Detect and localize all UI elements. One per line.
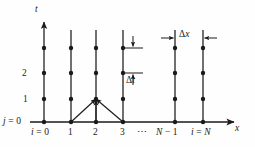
grid-node	[173, 46, 177, 50]
grid-node	[201, 71, 205, 75]
x-tick-label-3: 3	[120, 128, 125, 138]
grid-node	[69, 71, 73, 75]
finite-difference-grid-figure: t x 1 2 j = 0 i = 0 1 2 3 ⋯ N − 1 i = N …	[0, 0, 255, 147]
x-tick-label-iN: i = N	[191, 128, 211, 138]
x-tick-label-N-minus-1: N − 1	[156, 128, 178, 138]
delta-x-label: Δx	[179, 30, 190, 40]
grid-node	[201, 97, 205, 101]
grid-node	[69, 46, 73, 50]
grid-node	[94, 46, 98, 50]
grid-node	[42, 97, 46, 101]
grid-node	[42, 46, 46, 50]
grid-node	[201, 120, 205, 124]
grid-node	[42, 71, 46, 75]
grid-node	[173, 120, 177, 124]
grid-node	[201, 46, 205, 50]
t-axis-label: t	[35, 5, 38, 15]
grid-node	[42, 120, 46, 124]
grid-node	[173, 71, 177, 75]
j-equals-zero-label: j = 0	[3, 117, 21, 127]
stencil-arrow-left	[71, 99, 96, 122]
stencil-arrows	[71, 99, 123, 122]
y-tick-label-1: 1	[23, 95, 28, 105]
x-tick-label-1: 1	[68, 128, 73, 138]
x-tick-label-i0: i = 0	[31, 128, 49, 138]
stencil-arrow-right	[96, 99, 123, 122]
y-tick-label-2: 2	[22, 69, 27, 79]
x-tick-label-ellipsis: ⋯	[137, 128, 148, 138]
x-tick-label-2: 2	[93, 128, 98, 138]
x-axis-label: x	[235, 124, 239, 134]
grid-diagram-canvas	[0, 0, 255, 147]
delta-t-label: Δt	[126, 76, 135, 86]
grid-node	[69, 97, 73, 101]
grid-node	[173, 97, 177, 101]
grid-node	[94, 71, 98, 75]
grid-node	[121, 97, 125, 101]
